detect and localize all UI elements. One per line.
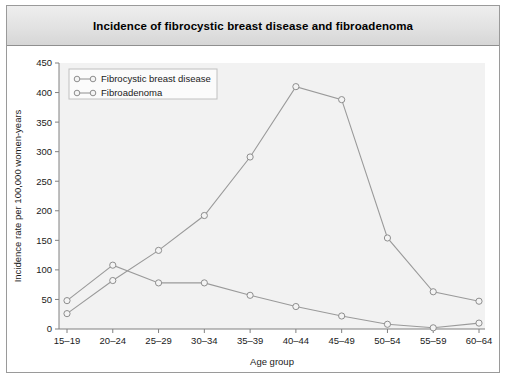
- plot-container: 05010015020025030035040045015–1920–2425–…: [7, 47, 499, 372]
- chart-figure: Incidence of fibrocystic breast disease …: [6, 5, 500, 373]
- x-tick-label: 20–24: [100, 335, 126, 346]
- legend-marker: [90, 90, 96, 96]
- y-tick-label: 150: [36, 235, 52, 246]
- data-point: [430, 325, 436, 331]
- legend-marker: [74, 90, 80, 96]
- x-tick-label: 35–39: [237, 335, 263, 346]
- plot-area-background: [59, 63, 485, 329]
- x-tick-label: 15–19: [54, 335, 80, 346]
- data-point: [339, 97, 345, 103]
- y-tick-label: 300: [36, 146, 52, 157]
- chart-title-bar: Incidence of fibrocystic breast disease …: [7, 6, 499, 46]
- y-axis-title: Incidence rate per 100,000 women-years: [12, 109, 23, 282]
- y-tick-label: 400: [36, 87, 52, 98]
- data-point: [201, 212, 207, 218]
- legend-marker: [90, 76, 96, 82]
- data-point: [155, 280, 161, 286]
- data-point: [110, 277, 116, 283]
- legend-marker: [74, 76, 80, 82]
- data-point: [247, 154, 253, 160]
- data-point: [293, 303, 299, 309]
- data-point: [155, 247, 161, 253]
- data-point: [384, 235, 390, 241]
- page-title: Incidence of fibrocystic breast disease …: [93, 20, 413, 32]
- x-tick-label: 50–54: [374, 335, 400, 346]
- y-tick-label: 350: [36, 117, 52, 128]
- y-tick-label: 250: [36, 176, 52, 187]
- line-chart: 05010015020025030035040045015–1920–2425–…: [7, 47, 499, 373]
- data-point: [201, 280, 207, 286]
- y-tick-label: 100: [36, 264, 52, 275]
- data-point: [339, 313, 345, 319]
- legend-label: Fibrocystic breast disease: [101, 73, 211, 84]
- data-point: [430, 289, 436, 295]
- data-point: [293, 84, 299, 90]
- y-tick-label: 0: [47, 323, 52, 334]
- x-tick-label: 60–64: [466, 335, 492, 346]
- y-tick-label: 50: [41, 294, 52, 305]
- y-tick-label: 450: [36, 57, 52, 68]
- data-point: [476, 298, 482, 304]
- x-tick-label: 25–29: [145, 335, 171, 346]
- data-point: [476, 320, 482, 326]
- data-point: [247, 292, 253, 298]
- legend-label: Fibroadenoma: [101, 87, 163, 98]
- data-point: [384, 321, 390, 327]
- x-tick-label: 40–44: [283, 335, 309, 346]
- data-point: [64, 311, 70, 317]
- x-tick-label: 45–49: [328, 335, 354, 346]
- data-point: [110, 262, 116, 268]
- x-tick-label: 55–59: [420, 335, 446, 346]
- x-axis-title: Age group: [250, 356, 294, 367]
- data-point: [64, 298, 70, 304]
- y-tick-label: 200: [36, 205, 52, 216]
- x-tick-label: 30–34: [191, 335, 217, 346]
